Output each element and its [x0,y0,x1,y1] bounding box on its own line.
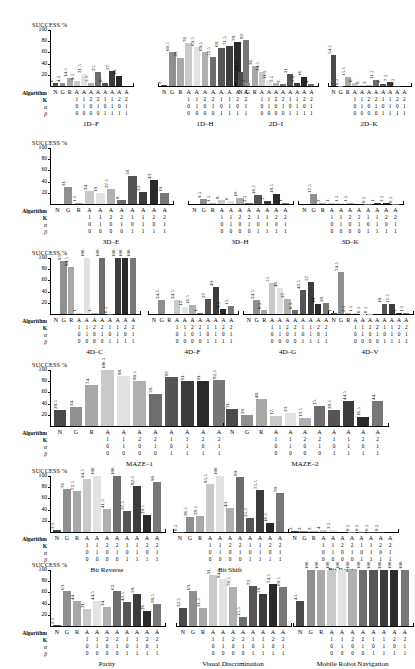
bar-value-label: 43. [223,501,228,508]
algorithm-label: A [299,317,307,323]
param-digit: 2 [102,637,112,642]
algorithm-label-row: NGRAAAAAAAA [225,429,385,435]
bar: 8. [117,200,126,204]
algorithm-label: A [283,429,298,435]
bar-value-label: 100. [356,560,361,570]
algorithm-label: A [314,317,322,323]
algorithm-label: A [92,535,102,541]
bar-slot: 100.5 [100,370,116,426]
param-digit-row-k: 11221122 [173,325,235,330]
param-digit: 0 [196,339,204,344]
param-digit: 1 [301,111,308,116]
param-digit: 0 [91,339,99,344]
bar-value-label: 46. [273,281,278,288]
param-digit: 0 [185,111,193,116]
param-digit: 1 [242,104,250,109]
algorithm-label: A [376,535,386,541]
bar-value-label: 1. [193,309,198,314]
param-row-label-alpha: α [0,550,47,556]
algorithm-label: R [165,317,173,323]
bar-value-label: 44.5 [342,391,347,401]
param-digit: 1 [308,111,315,116]
bar-slot: 38.5 [152,570,162,626]
bar-slot: 1.5 [73,148,84,204]
algorithm-label: R [176,89,184,95]
y-axis-tick-label: 100 [33,473,47,479]
param-digit: 0 [312,451,327,456]
bar-value-label: 0.5 [361,196,366,203]
algorithm-label: N [330,89,337,95]
algorithm-label: A [345,207,354,213]
param-digit: 2 [272,215,281,220]
param-digit: 1 [287,97,294,102]
param-digit: 2 [116,97,123,102]
y-axis-tick-label: 80 [33,266,47,272]
param-digit: 0 [235,229,244,234]
bar-value-label: 37.5 [120,501,125,511]
y-axis-tick-label: 40 [33,601,47,607]
bar-slot: 2. [358,30,365,86]
bar-value-label: 9.5 [216,301,221,308]
bar-value-label: 80.5 [132,371,137,381]
algorithm-label: N [330,317,337,323]
param-digit: 1 [322,339,330,344]
algorithm-label: A [159,207,170,213]
y-axis-tick-label: 40 [33,507,47,513]
bar-value-label: 1. [325,199,330,204]
x-axis-baseline [50,532,166,533]
algorithm-label: N [52,629,62,635]
algorithm-label: A [148,207,159,213]
algorithm-label: A [338,535,348,541]
bar: 24.5 [158,300,164,314]
algorithm-label: A [347,629,357,635]
param-digit: 2 [280,97,287,102]
param-digit-row-k: 11221122 [208,637,288,642]
param-digit: 2 [389,637,399,642]
param-digit: 0 [102,104,109,109]
param-digit: 1 [129,339,137,344]
y-axis-tick-label: 60 [33,167,47,173]
panel-title: 3D–H [190,238,290,246]
param-digit: 2 [275,543,285,548]
y-axis-tick-mark [48,193,50,194]
bar-value-label: 81. [196,373,201,380]
param-digit: 2 [385,543,395,548]
algorithm-label: A [248,629,258,635]
bar-value-label: 5.5 [269,76,274,83]
bar-slot: 0.5 [357,476,367,532]
param-digit-row-alpha: 01010101 [185,104,250,109]
bar-slot: 16.5 [356,370,371,426]
bar-value-label: 100. [126,248,131,258]
x-axis-start-tick [50,83,51,86]
bar-slot [385,476,395,532]
param-digit: 1 [208,637,218,642]
param-digit: 1 [312,444,327,449]
param-digit: 1 [245,543,255,548]
algorithm-label: A [102,89,109,95]
param-digit: 0 [365,104,372,109]
param-digit: 0 [352,339,359,344]
param-digit: 1 [355,222,364,227]
param-digit: 0 [358,111,365,116]
bar-value-label: 100. [325,560,330,570]
x-axis-baseline [176,626,292,627]
param-digit: 0 [248,644,258,649]
y-axis-tick-mark [48,498,50,499]
param-digit: 2 [347,543,357,548]
param-digit: 1 [185,97,193,102]
bar: 9.5 [74,81,80,86]
param-digit: 2 [347,637,357,642]
bar: 68. [218,48,225,86]
chart-row: SUCCESS %10080604020AlgorithmKαβ2.563.44… [0,562,415,669]
bar-value-label: 24.5 [250,291,255,301]
param-digit: 0 [204,332,212,337]
y-axis-tick-mark [48,604,50,605]
bar-slot: 100. [121,258,129,314]
bar-value-label: 82.5 [130,476,135,486]
param-digit: 2 [132,437,148,442]
bar: 69.5 [194,47,201,86]
algorithm-label: A [227,317,235,323]
bar-value-label: 16.5 [263,513,268,523]
algorithm-label: R [260,317,268,323]
param-digit: 1 [83,332,91,337]
